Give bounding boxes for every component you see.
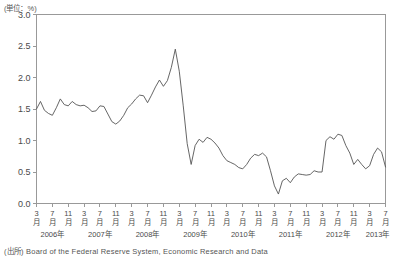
x-axis-month-suffix: 月: [350, 218, 357, 227]
x-axis-month-number: 11: [302, 209, 310, 218]
x-axis-month-number: 7: [50, 209, 54, 218]
y-axis-tick-label: 0.0: [18, 199, 31, 209]
source-note: (出所) Board of the Federal Reserve System…: [4, 245, 268, 256]
x-axis-month-number: 11: [255, 209, 263, 218]
x-axis-month-suffix: 月: [271, 218, 278, 227]
x-axis-month-number: 3: [272, 209, 276, 218]
x-axis-month-number: 11: [350, 209, 358, 218]
x-axis-month-number: 11: [112, 209, 120, 218]
x-axis-month-suffix: 月: [112, 218, 119, 227]
x-axis-month-suffix: 月: [255, 218, 262, 227]
y-axis-tick-label: 2.0: [18, 73, 31, 83]
x-axis-year-label: 2012年: [326, 229, 351, 239]
x-axis-month-number: 3: [368, 209, 372, 218]
x-axis-month-number: 3: [130, 209, 134, 218]
x-axis-month-suffix: 月: [208, 218, 215, 227]
x-axis-month-number: 7: [241, 209, 245, 218]
chart-series: [37, 49, 386, 194]
x-axis-year-label: 2013年: [366, 229, 391, 239]
x-axis-month-number: 7: [98, 209, 102, 218]
x-axis-month-number: 7: [145, 209, 149, 218]
line-chart-plot: 3月7月11月3月7月11月3月7月11月3月7月11月3月7月11月3月7月1…: [0, 0, 404, 258]
x-axis-month-suffix: 月: [192, 218, 199, 227]
y-axis-tick-label: 1.5: [18, 104, 31, 114]
x-axis-month-number: 3: [82, 209, 86, 218]
x-axis-month-suffix: 月: [160, 218, 167, 227]
x-axis-month-number: 11: [160, 209, 168, 218]
x-axis-month-number: 3: [320, 209, 324, 218]
x-axis-month-suffix: 月: [33, 218, 40, 227]
chart-axes: [33, 15, 386, 208]
x-axis-month-number: 7: [336, 209, 340, 218]
x-axis-month-suffix: 月: [144, 218, 151, 227]
x-axis-month-suffix: 月: [65, 218, 72, 227]
x-axis-month-number: 3: [177, 209, 181, 218]
x-axis-year-label: 2008年: [136, 229, 161, 239]
y-axis-tick-label: 2.5: [18, 41, 31, 51]
x-axis-month-suffix: 月: [303, 218, 310, 227]
y-axis-tick-label: 1.0: [18, 136, 31, 146]
x-axis-month-suffix: 月: [49, 218, 56, 227]
y-axis-labels: 0.00.51.01.52.02.53.0: [18, 10, 31, 209]
x-axis-month-suffix: 月: [319, 218, 326, 227]
x-axis-month-suffix: 月: [334, 218, 341, 227]
x-axis-year-label: 2007年: [88, 229, 113, 239]
x-axis-month-suffix: 月: [96, 218, 103, 227]
x-axis-month-suffix: 月: [176, 218, 183, 227]
x-axis-month-number: 3: [225, 209, 229, 218]
x-axis-month-suffix: 月: [128, 218, 135, 227]
x-axis-month-suffix: 月: [287, 218, 294, 227]
x-axis-month-number: 3: [34, 209, 38, 218]
chart-container: (単位：%) 3月7月11月3月7月11月3月7月11月3月7月11月3月7月1…: [0, 0, 404, 258]
x-axis-month-suffix: 月: [382, 218, 389, 227]
x-axis-month-number: 11: [207, 209, 215, 218]
x-axis-month-number: 7: [383, 209, 387, 218]
x-axis-month-suffix: 月: [81, 218, 88, 227]
x-axis-month-suffix: 月: [223, 218, 230, 227]
x-axis-month-number: 7: [288, 209, 292, 218]
x-axis-year-label: 2010年: [231, 229, 256, 239]
y-axis-tick-label: 0.5: [18, 167, 31, 177]
x-axis-year-label: 2009年: [183, 229, 208, 239]
series-line: [37, 49, 386, 194]
x-axis-month-suffix: 月: [366, 218, 373, 227]
x-axis-month-suffix: 月: [239, 218, 246, 227]
x-axis-labels: 3月7月11月3月7月11月3月7月11月3月7月11月3月7月11月3月7月1…: [33, 209, 390, 239]
x-axis-year-label: 2011年: [279, 229, 303, 239]
x-axis-month-number: 7: [193, 209, 197, 218]
y-axis-tick-label: 3.0: [18, 10, 31, 20]
x-axis-year-label: 2006年: [41, 229, 66, 239]
x-axis-month-number: 11: [64, 209, 72, 218]
